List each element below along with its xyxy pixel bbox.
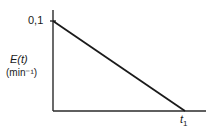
y-axis-label: E(t) xyxy=(10,53,28,65)
x-tick-subscript: 1 xyxy=(183,119,187,128)
data-line xyxy=(53,21,185,111)
y-tick-label: 0,1 xyxy=(28,14,43,26)
x-tick-label: t1 xyxy=(180,113,188,128)
y-axis-unit: (min⁻¹) xyxy=(6,67,37,79)
